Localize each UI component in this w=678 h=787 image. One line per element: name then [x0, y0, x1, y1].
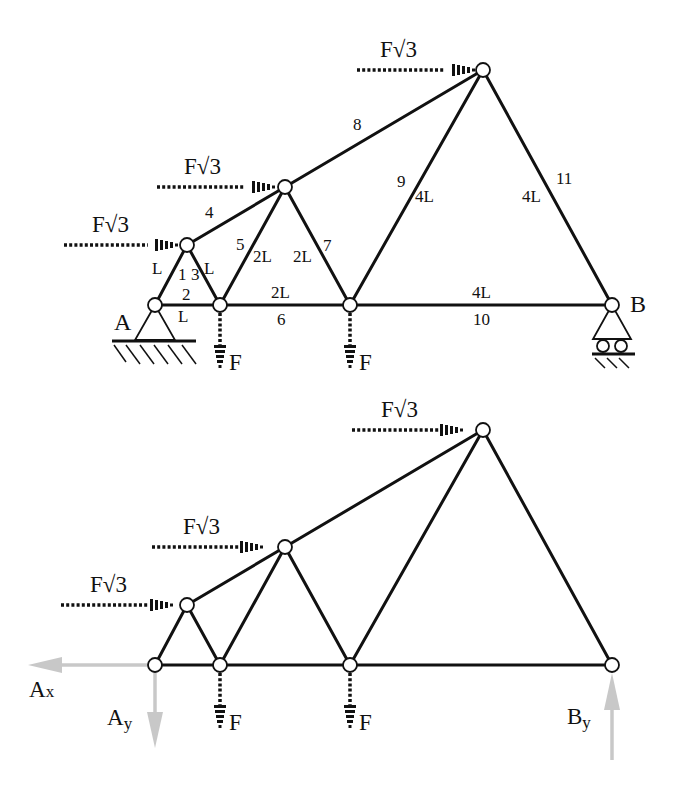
joint-A: [148, 298, 162, 312]
load-label: F√3: [380, 37, 417, 62]
member-number: 1: [178, 265, 187, 284]
joint-5: [476, 63, 490, 77]
joint-B: [605, 658, 619, 672]
member-length: L: [178, 307, 188, 326]
joint-A: [148, 658, 162, 672]
load-label: F: [359, 710, 372, 735]
member-length: 4L: [415, 187, 434, 206]
reaction-ay-arrow-icon: [147, 672, 163, 748]
joint-4: [343, 298, 357, 312]
member-7: [285, 547, 350, 665]
load-arrow-icon: [152, 541, 263, 553]
load-arrow-icon: [344, 313, 356, 368]
load-arrow-icon: [352, 424, 463, 436]
roller-support-icon: [592, 305, 635, 368]
member-3: [187, 605, 220, 665]
reaction-by-arrow-icon: [604, 673, 620, 760]
joint-5: [476, 423, 490, 437]
load-label: F√3: [92, 212, 129, 237]
support-label-B: B: [630, 291, 646, 317]
member-1: [155, 605, 187, 665]
load-label: F: [359, 350, 372, 375]
member-length: 2L: [271, 283, 290, 302]
member-length: L: [204, 259, 214, 278]
load-label: F: [229, 350, 242, 375]
load-arrow-icon: [157, 181, 275, 193]
member-number: 7: [323, 236, 332, 255]
member-number: 11: [556, 169, 572, 188]
member-8: [285, 70, 483, 187]
reaction-label-by: By: [567, 704, 591, 732]
load-label: F√3: [184, 154, 221, 179]
member-11: [483, 70, 612, 305]
member-length: 4L: [522, 187, 541, 206]
load-arrow-icon: [64, 239, 178, 251]
load-arrow-icon: [61, 599, 173, 611]
member-11: [483, 430, 612, 665]
member-number: 9: [397, 172, 406, 191]
free-body-diagram: F√3 F√3 F√3 F F Ax Ay By: [28, 397, 620, 760]
top-truss: F√3 F√3 F√3 F F A B 1 2 3 4 5 6 7: [64, 37, 646, 375]
member-length: L: [152, 259, 162, 278]
load-arrow-icon: [214, 673, 226, 728]
load-label: F√3: [90, 572, 127, 597]
member-length: 2L: [253, 247, 272, 266]
member-9: [350, 430, 483, 665]
member-number: 10: [473, 310, 490, 329]
member-number: 5: [236, 235, 245, 254]
load-arrow-icon: [357, 64, 475, 76]
load-arrow-icon: [344, 673, 356, 728]
load-label: F√3: [381, 397, 418, 422]
load-label: F√3: [183, 514, 220, 539]
support-label-A: A: [114, 309, 132, 335]
member-number: 8: [353, 115, 362, 134]
member-number: 6: [277, 310, 286, 329]
member-7: [285, 187, 350, 305]
member-8: [285, 430, 483, 547]
joint-4: [343, 658, 357, 672]
joint-1: [180, 238, 194, 252]
joint-3: [278, 540, 292, 554]
truss-diagram: F√3 F√3 F√3 F F A B 1 2 3 4 5 6 7: [0, 0, 678, 787]
member-number: 2: [182, 285, 191, 304]
joint-2: [213, 658, 227, 672]
member-length: 4L: [472, 283, 491, 302]
member-number: 3: [191, 265, 200, 284]
joint-1: [180, 598, 194, 612]
joint-B: [605, 298, 619, 312]
joint-3: [278, 180, 292, 194]
reaction-label-ay: Ay: [107, 705, 133, 733]
member-length: 2L: [293, 247, 312, 266]
joint-2: [213, 298, 227, 312]
reaction-label-ax: Ax: [29, 677, 55, 702]
load-arrow-icon: [214, 313, 226, 368]
reaction-ax-arrow-icon: [28, 657, 148, 673]
load-label: F: [229, 710, 242, 735]
member-number: 4: [205, 203, 214, 222]
